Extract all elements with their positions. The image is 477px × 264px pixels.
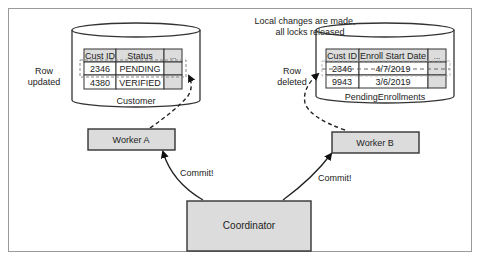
commit-label-a: Commit! (180, 168, 214, 178)
note-line-2: all locks released (275, 27, 344, 37)
row-updated-label-2: updated (28, 77, 61, 87)
worker-b-box: Worker B (332, 132, 419, 153)
diagram-canvas: Cust ID Status ... 2346 PENDING 4380 VER… (0, 0, 477, 264)
customer-table: Cust ID Status ... 2346 PENDING 4380 VER… (80, 49, 186, 89)
customer-cell: 4380 (90, 78, 110, 88)
row-deleted-label-2: deleted (277, 77, 307, 87)
pending-enrollments-table: Cust ID Enroll Start Date ... 2346 4/7/2… (322, 49, 450, 88)
coordinator-label: Coordinator (223, 220, 276, 231)
worker-a-box: Worker A (88, 129, 175, 150)
pending-cell: 2346 (332, 64, 352, 74)
pending-col-enroll-date: Enroll Start Date (360, 51, 426, 61)
row-updated-label-1: Row (35, 66, 54, 76)
row-deleted-label-1: Row (283, 66, 302, 76)
customer-cell: 2346 (90, 64, 110, 74)
pending-col-custid: Cust ID (327, 51, 358, 61)
customer-database: Cust ID Status ... 2346 PENDING 4380 VER… (72, 23, 200, 107)
note-line-1: Local changes are made, (254, 16, 355, 26)
pending-db-label: PendingEnrollments (345, 92, 426, 102)
customer-db-label: Customer (116, 96, 155, 106)
worker-a-label: Worker A (113, 135, 150, 145)
coordinator-box: Coordinator (187, 201, 311, 251)
commit-label-b: Commit! (318, 173, 352, 183)
customer-cell: PENDING (119, 64, 160, 74)
pending-cell: 3/6/2019 (375, 77, 410, 87)
customer-cell: VERIFIED (119, 78, 161, 88)
worker-b-label: Worker B (356, 138, 393, 148)
pending-col-more: ... (434, 52, 441, 61)
pending-cell: 9943 (332, 77, 352, 87)
